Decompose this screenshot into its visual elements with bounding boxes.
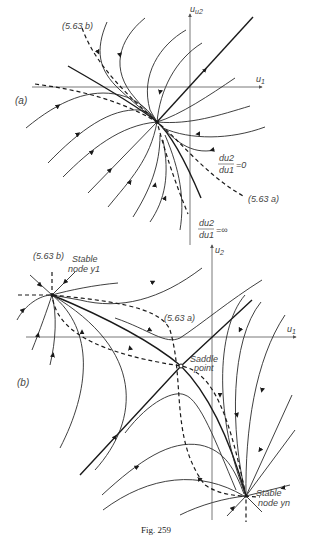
eigen-line-a (157, 17, 253, 122)
trajectory (157, 43, 202, 122)
stable-node-y1 (50, 293, 54, 297)
isocline-inf-label: du2 du1 =∞ (198, 218, 228, 240)
saddle-stable-separatrix (52, 295, 246, 496)
figure-caption: Fig. 259 (141, 525, 172, 535)
trajectory (227, 496, 246, 516)
trajectory (133, 135, 160, 217)
isocline-zero-label: du2 du1 =0 (218, 153, 246, 175)
isocline-label-a-b: (5.63 a) (164, 313, 195, 323)
trajectory (246, 395, 292, 496)
stable-node-y1-label-line2: node y1 (68, 264, 100, 274)
trajectory (32, 295, 52, 350)
isocline-label-b-a: (5.63 b) (62, 21, 93, 31)
phase-portrait-figure: uu2 u1 (a) (5.63 b) (5.63 a) du2 du1 =0 … (0, 0, 312, 549)
panel-a: uu2 u1 (a) (5.63 b) (5.63 a) du2 du1 =0 … (15, 4, 279, 245)
panel-label-b: (b) (17, 377, 29, 388)
trajectory (88, 122, 157, 193)
trajectory (17, 295, 52, 320)
saddle-point (179, 364, 183, 368)
svg-text:du2: du2 (199, 218, 214, 228)
svg-text:du1: du1 (219, 165, 234, 175)
trajectory (157, 78, 235, 122)
panel-b: u2 u1 (b) (5.63 b) (5.63 a) Stable node … (17, 245, 296, 522)
trajectory (246, 315, 285, 496)
trajectory (100, 22, 157, 122)
stable-node-yn (244, 494, 248, 498)
saddle-unstable-separatrix (80, 300, 252, 475)
stable-node-y1-label-line1: Stable (72, 254, 98, 264)
svg-text:=∞: =∞ (216, 225, 228, 235)
trajectory (147, 30, 186, 122)
trajectory (63, 122, 157, 177)
u2-axis-label-a: uu2 (190, 4, 203, 15)
svg-text:=0: =0 (236, 160, 246, 170)
u2-axis-label-b: u2 (215, 245, 224, 256)
trajectory (52, 295, 83, 448)
trajectory (48, 110, 157, 163)
trajectory (103, 480, 244, 510)
isocline-label-a-a: (5.63 a) (248, 194, 279, 204)
trajectory (160, 125, 215, 151)
trajectory (150, 140, 166, 222)
trajectory (115, 280, 262, 340)
svg-text:du1: du1 (199, 230, 214, 240)
trajectory (165, 135, 182, 230)
trajectory (50, 295, 55, 365)
trajectory (102, 444, 244, 495)
stable-node-yn-label-line2: node yn (258, 498, 290, 508)
panel-label-a: (a) (15, 95, 27, 106)
isocline-label-b-b: (5.63 b) (33, 251, 64, 261)
isocline-5-63a-a (35, 84, 245, 197)
stable-node-yn-label-line1: Stable (256, 488, 282, 498)
isocline-5-63a-b (18, 295, 260, 497)
node-point-a (155, 120, 159, 124)
trajectory (180, 496, 246, 515)
trajectory (26, 93, 157, 128)
u1-axis-label-b: u1 (287, 324, 296, 335)
trajectory (163, 127, 265, 137)
trajectory (246, 430, 295, 496)
saddle-point-label-line2: point (193, 363, 214, 373)
trajectory (30, 275, 52, 295)
svg-text:du2: du2 (219, 153, 234, 163)
tangent-line-a (68, 66, 201, 198)
u1-axis-label-a: u1 (256, 74, 265, 85)
trajectory (157, 106, 250, 123)
